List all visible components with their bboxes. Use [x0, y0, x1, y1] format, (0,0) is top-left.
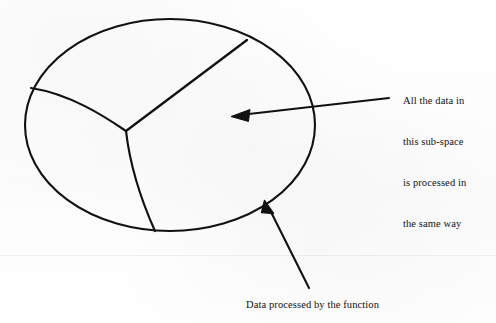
figure-canvas: All the data in this sub-space is proces… — [0, 0, 496, 323]
subspace-annotation-text: All the data in this sub-space is proces… — [403, 67, 466, 257]
straight-divider-upper-right — [126, 40, 247, 131]
function-caption-text: Data processed by the function — [246, 298, 379, 312]
subspace-annotation-line-1: All the data in — [403, 94, 466, 108]
curved-divider-lower — [126, 131, 155, 231]
subspace-arrow-head — [231, 110, 250, 122]
subspace-pointer-arrow — [231, 98, 389, 122]
function-arrow-shaft — [270, 210, 309, 288]
subspace-annotation-line-2: this sub-space — [403, 135, 466, 149]
data-space-ellipse — [25, 19, 315, 231]
subspace-annotation-line-4: the same way — [403, 217, 466, 231]
function-pointer-arrow — [262, 201, 310, 289]
subspace-annotation-line-3: is processed in — [403, 176, 466, 190]
curved-divider-left — [31, 88, 126, 131]
